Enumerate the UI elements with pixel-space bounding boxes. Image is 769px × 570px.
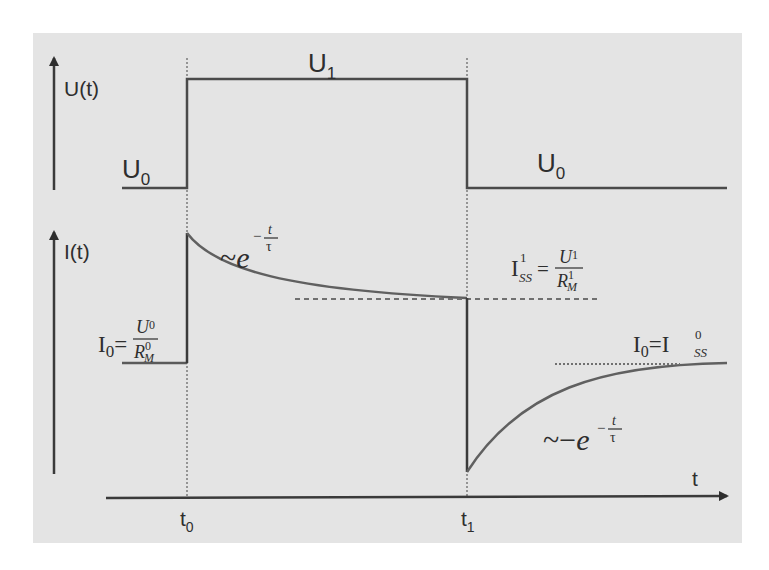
time-axis <box>106 496 727 498</box>
svg-text:I: I <box>511 256 519 281</box>
u-signal <box>122 79 727 188</box>
svg-text:τ: τ <box>266 239 272 254</box>
svg-text:=: = <box>537 257 549 281</box>
svg-text:SS: SS <box>694 345 708 360</box>
svg-text:~−e: ~−e <box>543 423 589 456</box>
svg-text:τ: τ <box>610 430 616 445</box>
svg-text:t: t <box>612 413 617 428</box>
time-axis-label: t <box>692 467 698 490</box>
upper-plot <box>54 58 727 190</box>
t0-label: t0 <box>180 507 194 535</box>
recovery-curve <box>467 363 727 472</box>
svg-text:U1: U1 <box>559 247 578 267</box>
lower-plot <box>54 232 727 474</box>
step-response-diagram: U(t) U0 U1 U0 I(t) I0= U0 R0M ~e − t τ I… <box>0 0 769 570</box>
svg-text:1: 1 <box>520 250 527 265</box>
svg-text:−: − <box>253 228 261 244</box>
u0-left-label: U0 <box>122 154 150 189</box>
svg-text:SS: SS <box>519 270 533 285</box>
svg-text:I0=: I0= <box>98 332 127 361</box>
iss0-formula: I0=I 0 SS <box>633 327 708 360</box>
svg-text:0: 0 <box>695 327 702 342</box>
i0-formula: I0= U0 R0M <box>98 317 158 365</box>
u1-label: U1 <box>308 48 336 83</box>
u-axis-label: U(t) <box>64 77 99 100</box>
svg-text:~e: ~e <box>220 241 250 274</box>
t1-label: t1 <box>461 507 475 535</box>
i-axis-label: I(t) <box>64 240 90 263</box>
iss1-formula: I 1 SS = U1 R1M <box>511 247 583 294</box>
svg-text:R1M: R1M <box>556 268 578 294</box>
svg-text:R0M: R0M <box>133 339 155 365</box>
svg-text:U0: U0 <box>136 317 155 337</box>
svg-text:−: − <box>597 420 605 436</box>
svg-text:I0=I: I0=I <box>633 332 669 360</box>
decay-label: ~e − t τ <box>220 222 278 274</box>
svg-text:t: t <box>268 222 273 237</box>
recovery-label: ~−e − t τ <box>543 413 622 456</box>
u0-right-label: U0 <box>537 148 565 183</box>
time-guides <box>187 58 467 498</box>
